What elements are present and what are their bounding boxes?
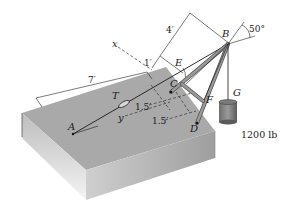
label-x-axis: x [112,38,118,49]
label-F: F [205,94,214,105]
label-y-axis: y [117,112,124,123]
dimension-4ft: 4′ [166,25,174,35]
label-A: A [67,121,75,132]
crane-diagram: A B C D E F G T x y 7′ 4′ 1′ 1.5′ 1.5′ 5… [0,0,293,205]
label-C: C [170,78,178,89]
dimension-1ft: 1′ [144,58,152,68]
dimension-7ft: 7′ [88,75,96,85]
dimension-1-5ft-b: 1.5′ [152,116,168,126]
label-G: G [233,87,241,98]
dimension-1-5ft-a: 1.5′ [135,102,151,112]
label-D: D [189,123,198,134]
load-label: 1200 lb [241,129,277,140]
label-E: E [174,57,183,68]
label-B: B [221,28,229,39]
angle-50deg: 50° [249,24,265,34]
